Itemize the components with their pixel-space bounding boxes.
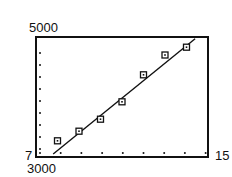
y-tick-dot bbox=[39, 124, 41, 126]
y-tick-dot bbox=[39, 148, 41, 150]
x-tick-dot bbox=[163, 152, 165, 154]
x-tick-dot bbox=[60, 152, 62, 154]
plot-frame bbox=[36, 37, 208, 157]
y-tick-dot bbox=[39, 136, 41, 138]
y-tick-dot bbox=[39, 112, 41, 114]
x-tick-dot bbox=[39, 152, 41, 154]
x-tick-dot bbox=[122, 152, 124, 154]
x-tick-dot bbox=[143, 152, 145, 154]
x-tick-dot bbox=[80, 152, 82, 154]
y-tick-dot bbox=[39, 76, 41, 78]
x-tick-dot bbox=[101, 152, 103, 154]
y-tick-dot bbox=[39, 100, 41, 102]
y-tick-dot bbox=[39, 52, 41, 54]
x-tick-dot bbox=[184, 152, 186, 154]
y-tick-dot bbox=[39, 64, 41, 66]
regression-line bbox=[53, 39, 195, 154]
x-tick-dot bbox=[205, 152, 207, 154]
scatter-plot bbox=[0, 0, 232, 177]
y-tick-dot bbox=[39, 88, 41, 90]
